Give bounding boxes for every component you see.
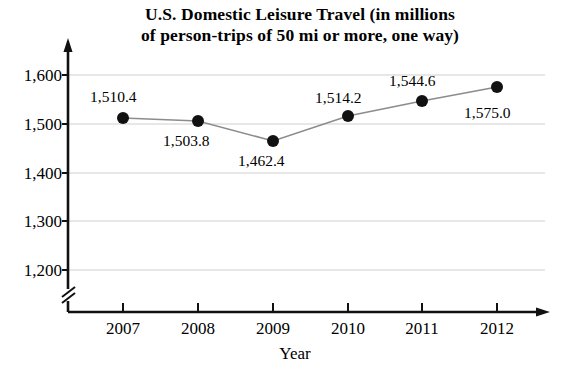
data-point-2007 [117,112,129,124]
data-label-2010: 1,514.2 [315,90,362,106]
chart-container: U.S. Domestic Leisure Travel (in million… [0,0,562,372]
x-tick-label-2009: 2009 [243,320,303,337]
data-point-2011 [416,95,428,107]
x-axis-title: Year [245,344,345,364]
y-tick-label-1200: 1,200 [6,262,62,279]
data-label-2012: 1,575.0 [464,105,511,121]
y-tick-label-1400: 1,400 [6,165,62,182]
data-label-2011: 1,544.6 [389,73,436,89]
y-tick-label-1300: 1,300 [6,213,62,230]
y-tick-label-1600: 1,600 [6,67,62,84]
data-point-2008 [192,115,204,127]
x-tick-label-2011: 2011 [392,320,452,337]
x-axis [68,303,550,317]
x-axis-ticks [123,303,497,312]
x-tick-label-2007: 2007 [93,320,153,337]
data-point-2009 [267,135,279,147]
data-label-2008: 1,503.8 [163,133,210,149]
x-tick-label-2010: 2010 [318,320,378,337]
y-axis-arrowhead [64,38,73,52]
y-tick-label-1500: 1,500 [6,116,62,133]
chart-canvas [0,0,562,372]
x-axis-arrowhead [536,308,550,317]
data-point-2012 [491,81,503,93]
x-tick-label-2012: 2012 [467,320,527,337]
x-tick-label-2008: 2008 [168,320,228,337]
data-label-2009: 1,462.4 [238,153,285,169]
y-axis-break-icon [62,287,75,303]
data-label-2007: 1,510.4 [90,89,137,105]
data-point-2010 [342,110,354,122]
y-axis [62,38,75,312]
